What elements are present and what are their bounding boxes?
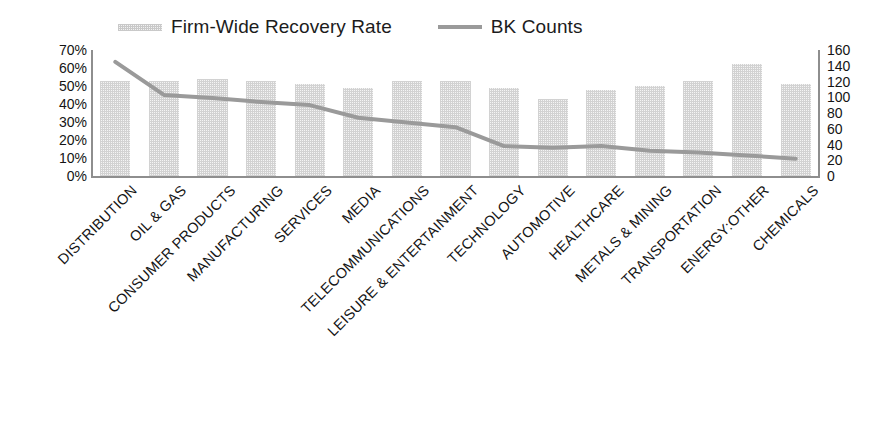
legend-label-bk-counts: BK Counts [491, 16, 583, 38]
left-axis-tick: 40% [59, 97, 87, 111]
plot-area [91, 50, 820, 176]
bottom-axis-line [91, 176, 820, 178]
right-axis-tick: 0 [827, 169, 835, 183]
legend-label-recovery-rate: Firm-Wide Recovery Rate [171, 16, 392, 38]
line-series-bk-counts [91, 50, 820, 176]
right-axis-tick: 100 [827, 90, 850, 104]
left-axis-tick: 60% [59, 61, 87, 75]
left-axis-tick: 50% [59, 79, 87, 93]
left-axis-tick: 20% [59, 133, 87, 147]
bar-swatch-icon [118, 24, 162, 31]
right-axis-tick: 140 [827, 59, 850, 73]
legend-item-firm-wide-recovery-rate: Firm-Wide Recovery Rate [118, 16, 392, 38]
line-swatch-icon [438, 25, 482, 29]
chart-legend: Firm-Wide Recovery Rate BK Counts [118, 16, 583, 38]
right-axis-tick: 120 [827, 75, 850, 89]
x-axis-category-label: MEDIA [339, 182, 383, 226]
right-axis-tick: 60 [827, 122, 843, 136]
right-axis-tick: 80 [827, 106, 843, 120]
left-axis-tick: 30% [59, 115, 87, 129]
recovery-rate-bk-counts-chart: Firm-Wide Recovery Rate BK Counts 70%60%… [0, 0, 887, 430]
right-axis-tick: 20 [827, 153, 843, 167]
legend-item-bk-counts: BK Counts [438, 16, 583, 38]
x-axis-category-label: DISTRIBUTION [55, 182, 140, 267]
left-axis-tick: 70% [59, 43, 87, 57]
left-axis-tick: 10% [59, 151, 87, 165]
left-axis-tick: 0% [67, 169, 87, 183]
right-axis-tick: 160 [827, 43, 850, 57]
right-axis-tick: 40 [827, 138, 843, 152]
x-axis-category-label: ENERGY:OTHER [678, 182, 772, 276]
